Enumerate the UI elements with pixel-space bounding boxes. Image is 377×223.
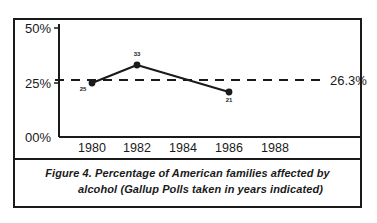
data-label-1982: 33 [127,51,147,57]
x-tick-label-1988: 1988 [252,141,298,155]
figure-caption: Figure 4. Percentage of American familie… [15,166,360,198]
caption-divider [13,158,362,160]
data-label-1986: 21 [219,97,239,103]
x-tick-label-1986: 1986 [206,141,252,155]
reference-line-label: 26.3% [330,73,367,88]
y-tick-label-00: 00% [9,130,51,145]
plot-area: 50% 25% 00% 1980 1982 1984 1986 1988 25 … [13,18,362,158]
x-tick-label-1984: 1984 [160,141,206,155]
x-tick-label-1982: 1982 [114,141,160,155]
data-point-1986 [226,89,233,96]
data-point-1982 [134,62,141,69]
data-line-series-1 [92,65,229,92]
figure-container: 50% 25% 00% 1980 1982 1984 1986 1988 25 … [0,0,377,223]
data-label-1980: 25 [73,86,93,92]
y-tick-label-25: 25% [9,76,51,91]
figure-caption-line-2: alcohol (Gallup Polls taken in years ind… [15,182,360,198]
figure-caption-line-1: Figure 4. Percentage of American familie… [15,166,360,182]
y-tick-label-50: 50% [9,21,51,36]
line-chart-svg [13,18,362,158]
x-tick-label-1980: 1980 [69,141,115,155]
